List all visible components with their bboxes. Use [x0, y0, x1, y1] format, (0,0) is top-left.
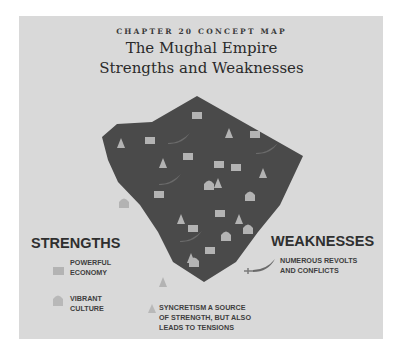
empire-map	[0, 0, 403, 355]
economy-square-icon	[214, 161, 224, 168]
economy-square-icon	[53, 267, 64, 275]
legend-culture-label: VIBRANT CULTURE	[70, 294, 104, 314]
empire-territory-shape	[102, 96, 303, 282]
syncretism-triangle-icon	[148, 304, 156, 313]
legend-revolts-label: NUMEROUS REVOLTS AND CONFLICTS	[280, 256, 357, 276]
economy-square-icon	[154, 191, 164, 198]
economy-square-icon	[231, 164, 241, 171]
economy-square-icon	[215, 210, 225, 217]
culture-temple-icon	[119, 199, 129, 209]
sword-icon	[244, 259, 275, 274]
economy-square-icon	[183, 153, 193, 160]
legend-syncretism-label: SYNCRETISM A SOURCE OF STRENGTH, BUT ALS…	[159, 303, 251, 333]
weaknesses-heading: WEAKNESSES	[271, 233, 374, 249]
economy-square-icon	[205, 247, 215, 254]
culture-temple-icon	[53, 296, 63, 307]
economy-square-icon	[192, 112, 202, 119]
economy-square-icon	[188, 225, 198, 232]
strengths-heading: STRENGTHS	[31, 235, 120, 251]
economy-square-icon	[145, 137, 155, 144]
syncretism-triangle-icon	[159, 277, 167, 287]
economy-square-icon	[250, 131, 260, 138]
legend-economy-label: POWERFUL ECONOMY	[70, 258, 111, 278]
